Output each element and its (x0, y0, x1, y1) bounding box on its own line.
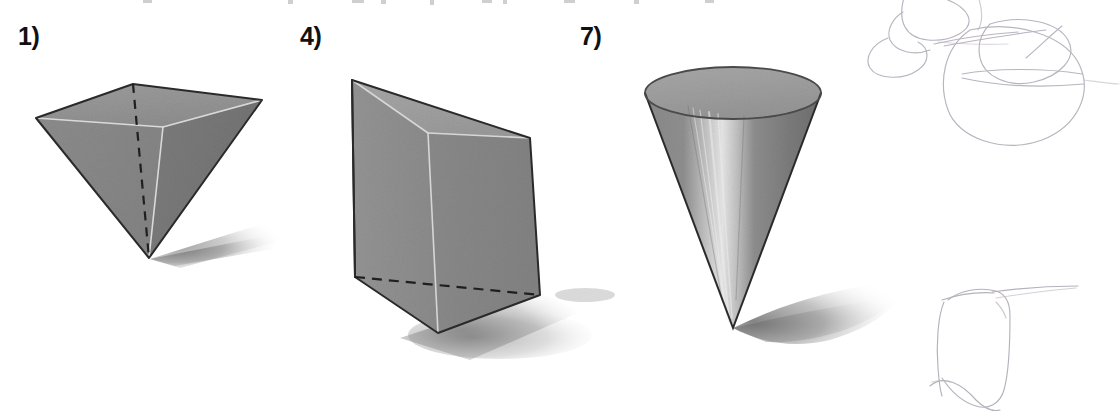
cone-lateral-surface (645, 93, 821, 328)
cone-body (645, 67, 821, 328)
worksheet-page: 1) 4) 7) (0, 0, 1120, 420)
figure-inverted-cone (0, 0, 1120, 420)
